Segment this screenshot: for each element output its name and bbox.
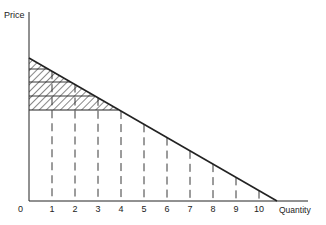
- demand-chart: [0, 0, 326, 225]
- x-tick-8: 8: [211, 204, 216, 214]
- x-tick-5: 5: [142, 204, 147, 214]
- x-tick-4: 4: [119, 204, 124, 214]
- x-axis-label: Quantity: [279, 205, 311, 215]
- x-tick-10: 10: [254, 204, 264, 214]
- x-tick-1: 1: [50, 204, 55, 214]
- origin-label: 0: [18, 204, 23, 214]
- x-tick-6: 6: [165, 204, 170, 214]
- y-axis-label: Price: [4, 10, 25, 20]
- x-tick-2: 2: [73, 204, 78, 214]
- x-tick-3: 3: [96, 204, 101, 214]
- demand-curve: [29, 58, 277, 201]
- x-tick-7: 7: [188, 204, 193, 214]
- x-tick-9: 9: [234, 204, 239, 214]
